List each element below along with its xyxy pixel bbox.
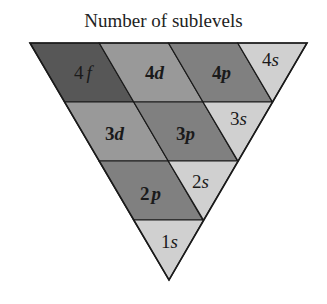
label-4p: 4p: [212, 62, 231, 83]
label-2s: 2s: [192, 171, 209, 192]
label-4s: 4s: [262, 49, 279, 70]
label-3p: 3p: [176, 123, 195, 144]
sublevel-triangle: 4f 4d 4p 4s 3d 3p 3s 2p 2s 1s: [0, 0, 327, 304]
label-1s: 1s: [161, 231, 178, 252]
label-4d: 4d: [145, 62, 165, 83]
label-3s: 3s: [230, 108, 247, 129]
label-3d: 3d: [105, 123, 125, 144]
